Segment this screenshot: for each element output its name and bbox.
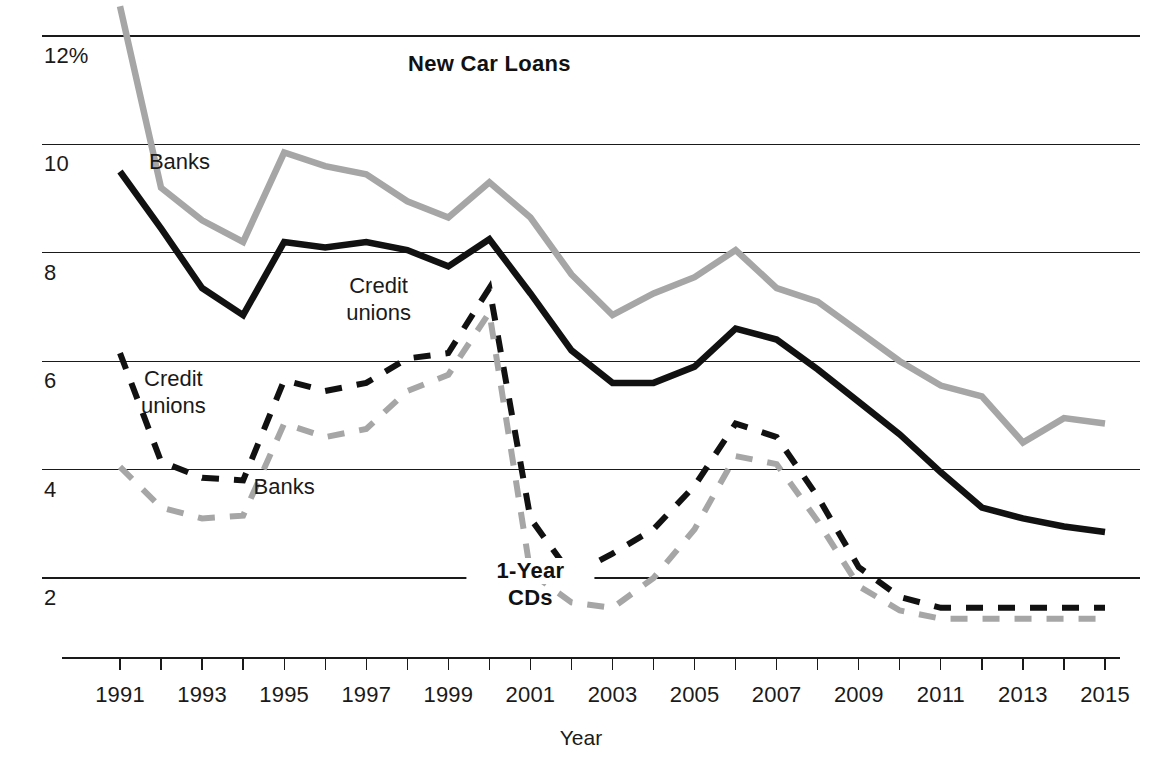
x-tick-label-1995: 1995 [259, 682, 309, 707]
y-tick-label-6: 6 [44, 368, 56, 393]
x-tick-label-2011: 2011 [917, 682, 965, 707]
x-tick-label-2015: 2015 [1080, 682, 1130, 707]
series-label-new-car-loans-credit-unions-line1: Credit [349, 273, 408, 298]
y-tick-label-8: 8 [44, 260, 56, 285]
series-label-1-year-cds-banks: Banks [254, 474, 315, 499]
x-tick-label-1999: 1999 [423, 682, 473, 707]
group-title-1-year-cds-line1: 1-Year [496, 558, 564, 583]
x-axis-title: Year [560, 726, 602, 749]
y-tick-label-10: 10 [44, 151, 69, 176]
series-label-1-year-cds-credit-unions-line1: Credit [144, 366, 203, 391]
x-tick-label-1997: 1997 [341, 682, 391, 707]
series-label-new-car-loans-credit-unions-line2: unions [346, 300, 411, 325]
x-tick-label-2013: 2013 [998, 682, 1048, 707]
series-label-new-car-loans-banks: Banks [149, 149, 210, 174]
y-tick-label-4: 4 [44, 477, 56, 502]
series-label-1-year-cds-credit-unions-line2: unions [141, 393, 206, 418]
x-tick-label-2009: 2009 [834, 682, 884, 707]
x-tick-label-2001: 2001 [506, 682, 556, 707]
y-tick-label-2: 2 [44, 585, 56, 610]
x-tick-label-2005: 2005 [670, 682, 720, 707]
x-tick-label-1991: 1991 [95, 682, 145, 707]
x-tick-label-1993: 1993 [177, 682, 227, 707]
group-title-1-year-cds-line2: CDs [508, 585, 553, 610]
group-title-new-car-loans: New Car Loans [408, 51, 571, 76]
y-tick-label-12pct: 12% [44, 43, 89, 68]
x-tick-label-2003: 2003 [588, 682, 638, 707]
x-tick-label-2007: 2007 [752, 682, 802, 707]
chart-container: 12%108642 199119931995199719992001200320… [0, 0, 1163, 780]
line-chart: 12%108642 199119931995199719992001200320… [0, 0, 1163, 780]
